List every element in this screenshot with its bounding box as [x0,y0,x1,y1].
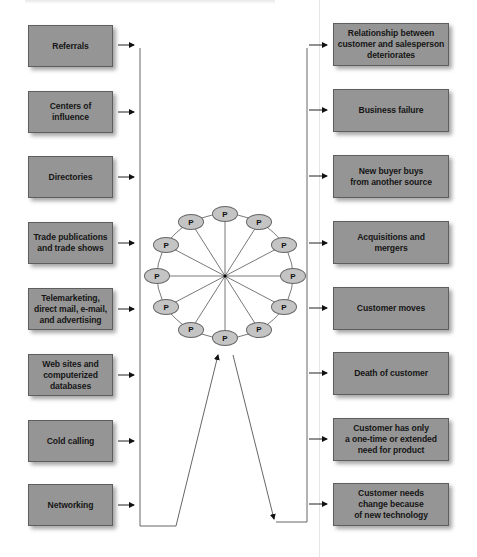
prospect-node: P [271,237,297,253]
source-box-cold-calling: Cold calling [28,420,113,462]
connector-lines [0,0,477,557]
prospect-node: P [246,322,272,338]
wheel-hub [223,274,226,277]
prospect-node: P [212,206,238,222]
source-box-networking: Networking [28,484,113,526]
loss-box-business-failure: Business failure [333,89,449,132]
loss-box-death-of-customer: Death of customer [333,352,449,395]
prospect-node: P [178,322,204,338]
prospect-node: P [271,299,297,315]
source-box-centers-of-influence: Centers of influence [28,91,113,133]
prospect-node: P [153,299,179,315]
prospect-node: P [144,268,170,284]
source-box-web-sites: Web sites and computerized databases [28,354,113,396]
loss-box-one-time-need: Customer has only a one-time or extended… [333,418,449,461]
loss-box-acquisitions: Acquisitions and mergers [333,221,449,264]
source-box-directories: Directories [28,156,113,198]
source-box-referrals: Referrals [28,25,113,67]
prospect-node: P [153,237,179,253]
loss-box-new-buyer: New buyer buys from another source [333,155,449,198]
source-box-telemarketing: Telemarketing, direct mail, e-mail, and … [28,288,113,330]
loss-box-customer-moves: Customer moves [333,287,449,330]
source-box-trade-publications: Trade publications and trade shows [28,222,113,264]
prospect-node: P [280,268,306,284]
loss-box-technology-change: Customer needs change because of new tec… [333,483,449,526]
prospect-node: P [212,330,238,346]
loss-box-relationship-deteriorates: Relationship between customer and salesp… [333,23,449,66]
